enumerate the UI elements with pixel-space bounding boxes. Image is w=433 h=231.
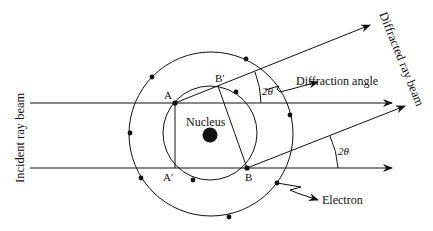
angle-label-upper: 2θ (262, 85, 274, 97)
point-label-a-prime: A′ (163, 171, 173, 183)
point-label-b: B (245, 171, 252, 183)
nucleus-dot (203, 128, 218, 143)
incident-beam-label: Incident ray beam (13, 92, 27, 183)
point-label-a: A (164, 89, 172, 101)
electron-label: Electron (322, 193, 363, 207)
diffraction-diagram: Nucleus A A′ B′ B 2θ 2θ Diffraction angl… (0, 0, 433, 231)
point-label-b-prime: B′ (215, 72, 225, 84)
angle-label-lower: 2θ (338, 145, 350, 157)
diffraction-angle-label: Diffraction angle (296, 74, 378, 88)
nucleus-label: Nucleus (186, 115, 226, 129)
diffracted-beam-label: Diffracted ray beam (376, 10, 427, 109)
diffracted-beams (175, 25, 405, 168)
electron-pointer (277, 183, 318, 200)
